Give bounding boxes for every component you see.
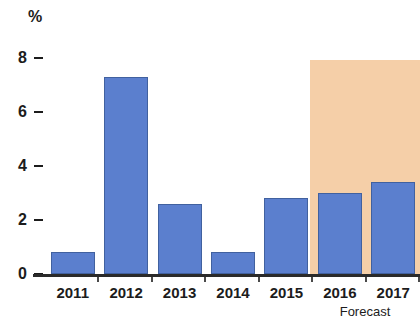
x-axis-tick-mark (258, 277, 260, 282)
y-axis-tick-2: 2 (18, 212, 56, 228)
x-axis-label-2014: 2014 (206, 285, 259, 300)
x-axis-label-2012: 2012 (99, 285, 152, 300)
y-axis-tick-6: 6 (18, 104, 56, 120)
y-axis-tick-8: 8 (18, 50, 56, 66)
x-axis-label-2017: 2017 (367, 285, 420, 300)
y-axis-tick-label: 4 (18, 158, 31, 174)
y-axis-tick-mark (34, 111, 43, 113)
x-axis-tick-mark (365, 277, 367, 282)
bar-2013[interactable] (158, 204, 202, 274)
forecast-caption: Forecast (310, 305, 420, 318)
y-axis-tick-4: 4 (18, 158, 56, 174)
x-axis-tick-mark (97, 277, 99, 282)
bar-chart: % 024682011201220132014201520162017 Fore… (0, 0, 420, 323)
y-axis-tick-label: 2 (18, 212, 31, 228)
bar-2016[interactable] (318, 193, 362, 274)
y-axis-tick-mark (34, 165, 43, 167)
x-axis-tick-mark (311, 277, 313, 282)
x-axis-label-2011: 2011 (46, 285, 99, 300)
x-axis-label-2013: 2013 (153, 285, 206, 300)
y-axis-tick-mark (34, 219, 43, 221)
y-axis-tick-label: 6 (18, 104, 31, 120)
x-axis-tick-mark (204, 277, 206, 282)
y-axis-tick-label: 8 (18, 50, 31, 66)
x-axis-line (33, 274, 420, 277)
x-axis-label-2016: 2016 (313, 285, 366, 300)
bar-2011[interactable] (51, 252, 95, 274)
bar-2015[interactable] (264, 198, 308, 274)
y-axis-tick-label: 0 (18, 266, 31, 282)
bar-2014[interactable] (211, 252, 255, 274)
bar-2017[interactable] (371, 182, 415, 274)
x-axis-label-2015: 2015 (260, 285, 313, 300)
bar-2012[interactable] (104, 77, 148, 274)
x-axis-tick-mark (151, 277, 153, 282)
y-axis-tick-mark (34, 57, 43, 59)
